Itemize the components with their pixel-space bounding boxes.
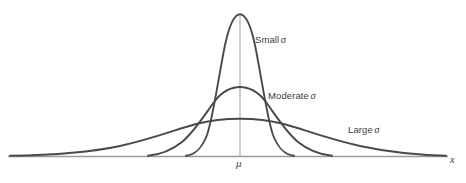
sigma-symbol-moderate: σ: [309, 90, 316, 101]
label-moderate-sigma-text: Moderate: [268, 90, 309, 101]
normal-curves-figure: Smallσ Moderateσ Largeσ μ x: [0, 0, 466, 183]
sigma-symbol-large: σ: [373, 124, 380, 135]
x-axis-label: x: [450, 154, 455, 165]
mean-axis-label: μ: [236, 157, 242, 169]
label-large-sigma: Largeσ: [348, 124, 380, 135]
curves-group: [10, 14, 446, 156]
label-large-sigma-text: Large: [348, 124, 373, 135]
sigma-symbol-small: σ: [279, 34, 286, 45]
label-small-sigma-text: Small: [255, 34, 279, 45]
distribution-plot: [0, 0, 466, 183]
label-moderate-sigma: Moderateσ: [268, 90, 316, 101]
curve-large-sigma: [10, 119, 446, 156]
label-small-sigma: Smallσ: [255, 34, 286, 45]
